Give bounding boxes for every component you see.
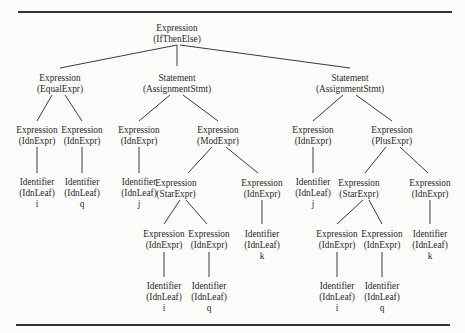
tree-node-identifier: Identifier(IdnLeaf)q — [64, 177, 100, 210]
node-kind: Expression — [155, 178, 196, 189]
tree-edge — [164, 200, 180, 224]
tree-edge — [337, 200, 363, 224]
node-class: (IdnLeaf) — [19, 188, 55, 199]
tree-node-expression: Expression(EqualExpr) — [37, 73, 83, 95]
node-class: (IdnLeaf) — [364, 292, 400, 303]
node-kind: Expression — [188, 229, 229, 240]
tree-node-expression: Expression(IdnExpr) — [409, 178, 450, 200]
tree-node-expression: Expression(IdnExpr) — [143, 229, 184, 251]
node-class: (IdnLeaf) — [412, 240, 448, 251]
node-kind: Expression — [153, 23, 201, 34]
tree-node-expression: Expression(IdnExpr) — [61, 125, 102, 147]
node-class: (IdnLeaf) — [319, 292, 355, 303]
tree-node-expression: Expression(ModExpr) — [197, 125, 239, 147]
node-class: (IdnExpr) — [361, 240, 402, 251]
node-kind: Expression — [371, 125, 412, 136]
node-kind: Expression — [61, 125, 102, 136]
node-kind: Expression — [197, 125, 239, 136]
node-kind: Expression — [16, 125, 57, 136]
node-kind: Identifier — [244, 229, 280, 240]
tree-node-identifier: Identifier(IdnLeaf)k — [244, 229, 280, 262]
node-value: j — [295, 199, 331, 210]
tree-node-identifier: Identifier(IdnLeaf)q — [191, 281, 227, 314]
tree-node-expression: Expression(PlusExpr) — [371, 125, 412, 147]
tree-node-identifier: Identifier(IdnLeaf)i — [146, 281, 182, 314]
node-class: (IdnLeaf) — [146, 292, 182, 303]
node-kind: Expression — [361, 229, 402, 240]
node-class: (EqualExpr) — [37, 84, 83, 95]
node-class: (IdnLeaf) — [191, 292, 227, 303]
tree-edge — [37, 95, 52, 121]
node-value: k — [244, 251, 280, 262]
node-value: j — [121, 199, 157, 210]
node-kind: Identifier — [364, 281, 400, 292]
tree-node-statement: Statement(AssignmentStmt) — [316, 73, 384, 95]
tree-node-expression: Expression(StarExpr) — [155, 178, 196, 200]
node-value: q — [191, 303, 227, 314]
node-kind: Identifier — [19, 177, 55, 188]
node-kind: Identifier — [146, 281, 182, 292]
tree-node-identifier: Identifier(IdnLeaf)q — [364, 281, 400, 314]
tree-node-expression: Expression(StarExpr) — [338, 178, 379, 200]
tree-edge — [183, 95, 218, 121]
node-kind: Expression — [409, 178, 450, 189]
tree-node-statement: Statement(AssignmentStmt) — [143, 73, 211, 95]
tree-node-expression: Expression(IdnExpr) — [361, 229, 402, 251]
node-class: (IfThenElse) — [153, 34, 201, 45]
tree-node-identifier: Identifier(IdnLeaf)j — [295, 177, 331, 210]
tree-edge — [356, 95, 392, 121]
node-value: i — [319, 303, 355, 314]
node-kind: Expression — [241, 178, 282, 189]
node-class: (IdnLeaf) — [244, 240, 280, 251]
node-class: (AssignmentStmt) — [316, 84, 384, 95]
tree-node-expression: Expression(IfThenElse) — [153, 23, 201, 45]
node-kind: Identifier — [412, 229, 448, 240]
node-kind: Expression — [316, 229, 357, 240]
node-class: (IdnExpr) — [118, 136, 159, 147]
node-value: k — [412, 251, 448, 262]
node-class: (IdnExpr) — [409, 189, 450, 200]
node-kind: Expression — [338, 178, 379, 189]
node-class: (IdnExpr) — [61, 136, 102, 147]
node-kind: Identifier — [121, 177, 157, 188]
tree-edge — [313, 95, 343, 121]
tree-node-expression: Expression(IdnExpr) — [118, 125, 159, 147]
tree-node-expression: Expression(IdnExpr) — [188, 229, 229, 251]
node-kind: Statement — [316, 73, 384, 84]
node-class: (PlusExpr) — [371, 136, 412, 147]
tree-node-identifier: Identifier(IdnLeaf)k — [412, 229, 448, 262]
node-kind: Expression — [37, 73, 83, 84]
node-class: (IdnExpr) — [188, 240, 229, 251]
tree-edge — [180, 45, 350, 68]
tree-edge — [365, 147, 386, 173]
tree-node-expression: Expression(IdnExpr) — [316, 229, 357, 251]
node-kind: Statement — [143, 73, 211, 84]
tree-edge — [60, 45, 177, 68]
tree-edge — [188, 147, 212, 173]
node-kind: Identifier — [319, 281, 355, 292]
node-class: (AssignmentStmt) — [143, 84, 211, 95]
node-kind: Identifier — [295, 177, 331, 188]
node-class: (ModExpr) — [197, 136, 239, 147]
node-kind: Expression — [292, 125, 333, 136]
tree-edge — [226, 147, 258, 173]
node-kind: Identifier — [191, 281, 227, 292]
node-value: q — [364, 303, 400, 314]
tree-node-identifier: Identifier(IdnLeaf)i — [19, 177, 55, 210]
node-class: (IdnExpr) — [316, 240, 357, 251]
tree-node-identifier: Identifier(IdnLeaf)j — [121, 177, 157, 210]
node-class: (IdnExpr) — [292, 136, 333, 147]
node-class: (IdnLeaf) — [121, 188, 157, 199]
node-value: i — [146, 303, 182, 314]
node-value: q — [64, 199, 100, 210]
node-class: (IdnExpr) — [241, 189, 282, 200]
node-kind: Identifier — [64, 177, 100, 188]
node-kind: Expression — [118, 125, 159, 136]
tree-edge — [65, 95, 82, 121]
node-class: (IdnLeaf) — [64, 188, 100, 199]
node-class: (StarExpr) — [338, 189, 379, 200]
tree-edge — [400, 147, 428, 173]
node-class: (StarExpr) — [155, 189, 196, 200]
node-class: (IdnExpr) — [143, 240, 184, 251]
tree-node-identifier: Identifier(IdnLeaf)i — [319, 281, 355, 314]
